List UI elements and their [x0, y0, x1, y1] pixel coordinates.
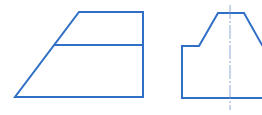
side-view-outline	[182, 13, 262, 98]
front-view-outline	[15, 12, 143, 97]
side-view	[182, 5, 262, 110]
technical-drawing	[0, 0, 262, 115]
front-view	[15, 12, 143, 97]
